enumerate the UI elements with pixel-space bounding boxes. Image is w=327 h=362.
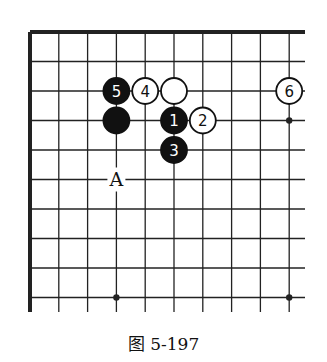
black-stone: 3	[161, 137, 187, 163]
white-stone	[161, 78, 187, 104]
white-stone: 6	[276, 78, 302, 104]
move-number: 6	[284, 83, 294, 101]
black-stone: 1	[161, 108, 187, 134]
board-grid	[30, 32, 305, 312]
go-board-diagram: A 546123	[0, 0, 327, 325]
move-number: 4	[140, 83, 150, 101]
white-stone: 4	[132, 78, 158, 104]
move-number: 1	[169, 112, 179, 130]
figure-caption: 图 5-197	[0, 330, 327, 355]
move-number: 5	[112, 83, 122, 101]
black-stone	[103, 108, 129, 134]
star-point	[286, 117, 292, 123]
marker-label: A	[109, 168, 124, 190]
star-point	[286, 294, 292, 300]
star-point	[113, 294, 119, 300]
white-stone: 2	[190, 108, 216, 134]
black-stone: 5	[103, 78, 129, 104]
move-number: 3	[169, 142, 179, 160]
move-number: 2	[198, 112, 208, 130]
board-markers: A	[107, 168, 125, 192]
